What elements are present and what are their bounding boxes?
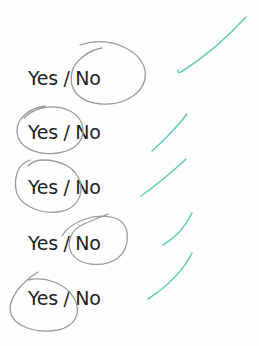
yes-no-option[interactable]: Yes / No	[28, 287, 101, 309]
worksheet: Yes / No Yes / No Yes / No Yes / No Yes …	[0, 0, 259, 346]
question-row-5: Yes / No	[0, 277, 259, 327]
question-row-4: Yes / No	[0, 222, 259, 272]
yes-no-option[interactable]: Yes / No	[28, 176, 101, 198]
yes-no-option[interactable]: Yes / No	[28, 232, 101, 254]
yes-no-option[interactable]: Yes / No	[28, 121, 101, 143]
question-row-1: Yes / No	[0, 57, 259, 107]
question-row-3: Yes / No	[0, 166, 259, 216]
yes-no-option[interactable]: Yes / No	[28, 67, 101, 89]
question-row-2: Yes / No	[0, 111, 259, 161]
